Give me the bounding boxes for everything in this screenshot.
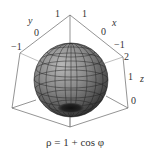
y-axis-label: y: [27, 15, 33, 26]
y-tick-neg1: −1: [11, 41, 22, 52]
x-tick-0: 0: [101, 26, 106, 37]
surface-plot: y 1 0 −1 x 1 0 −1 z 2 1 0 ρ = 1 + cos φ: [0, 0, 153, 154]
surface-equation-caption: ρ = 1 + cos φ: [46, 136, 104, 148]
y-tick-0: 0: [34, 27, 39, 38]
z-tick-2: 2: [124, 51, 129, 62]
x-tick-neg1: −1: [114, 39, 125, 50]
x-axis-label: x: [111, 17, 117, 28]
surface-dimple: [58, 103, 84, 113]
cardioid-surface: [34, 43, 108, 117]
y-tick-1: 1: [55, 8, 60, 19]
z-tick-0: 0: [131, 95, 136, 106]
z-axis-label: z: [139, 73, 144, 84]
z-tick-1: 1: [128, 71, 133, 82]
x-tick-1: 1: [82, 8, 87, 19]
